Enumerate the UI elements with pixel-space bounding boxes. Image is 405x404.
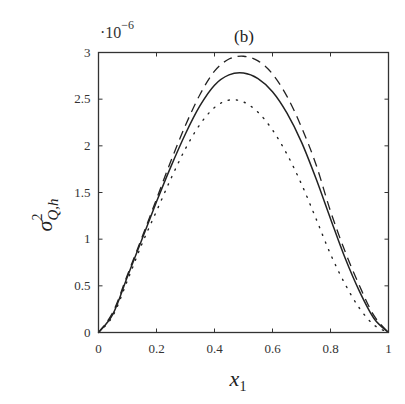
x-axis-label: x1 — [229, 366, 247, 394]
series-dashed-line — [99, 56, 389, 332]
y-tick-label: 1 — [84, 231, 91, 246]
y-tick-label: 1.5 — [74, 185, 90, 200]
plot-curves — [99, 56, 389, 332]
series-dotted-line — [99, 100, 389, 333]
y-tick-label: 2.5 — [74, 91, 90, 106]
x-tick-label: 0.8 — [322, 341, 338, 356]
chart-title: (b) — [234, 27, 254, 46]
x-tick-label: 1 — [385, 341, 392, 356]
x-tick-label: 0 — [95, 341, 102, 356]
axis-ticks: 00.20.40.60.8100.511.522.53 — [74, 45, 392, 356]
y-tick-label: 0.5 — [74, 278, 90, 293]
x-tick-label: 0.4 — [206, 341, 223, 356]
x-tick-label: 0.6 — [264, 341, 281, 356]
y-tick-label: 3 — [84, 45, 91, 60]
chart: 00.20.40.60.8100.511.522.53 (b) ·10−6 x1… — [0, 0, 405, 404]
y-exponent-label: ·10−6 — [100, 18, 134, 41]
plot-area-frame — [99, 53, 389, 333]
series-solid-line — [99, 73, 389, 333]
y-axis-label: σ2Q,h — [30, 199, 61, 232]
y-tick-label: 2 — [84, 138, 91, 153]
x-tick-label: 0.2 — [148, 341, 164, 356]
y-tick-label: 0 — [84, 325, 91, 340]
